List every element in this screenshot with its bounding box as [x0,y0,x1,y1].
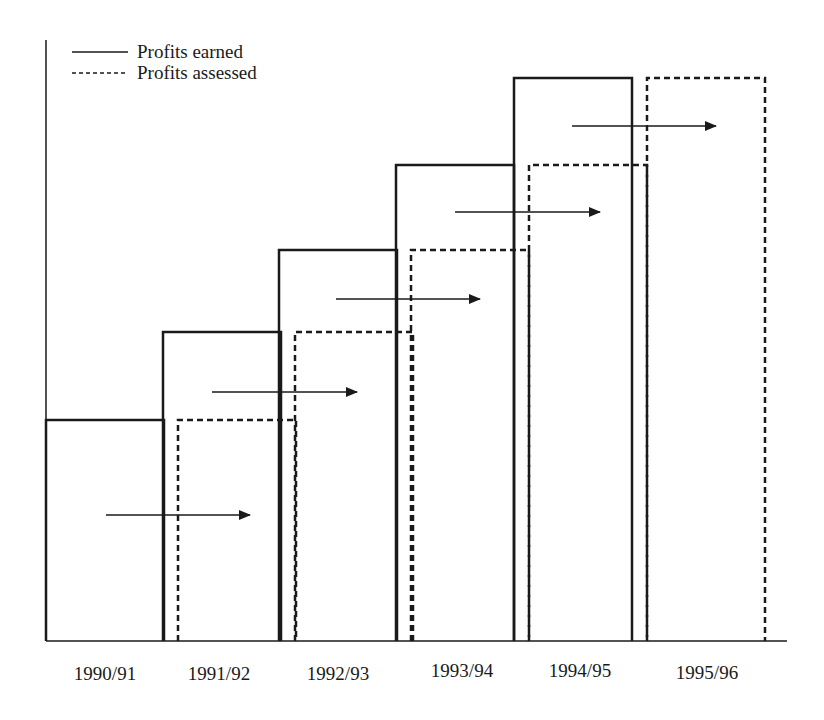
x-tick-label: 1992/93 [307,663,369,684]
x-tick-label: 1991/92 [188,663,250,684]
x-tick-label: 1995/96 [676,662,738,683]
legend-label-earned: Profits earned [137,41,244,62]
chart-canvas: Profits earned Profits assessed 1990/91 … [0,0,824,720]
bar-profits-earned [514,78,632,641]
bar-profits-earned [46,420,164,641]
series-profits-assessed [178,78,765,641]
x-tick-label: 1994/95 [549,660,611,681]
legend-label-assessed: Profits assessed [137,62,257,83]
series-profits-earned [46,78,632,641]
legend: Profits earned Profits assessed [72,41,257,83]
x-tick-label: 1990/91 [74,663,136,684]
bar-profits-assessed [529,165,647,641]
bar-profits-assessed [647,78,765,641]
bar-profits-earned [163,332,281,641]
x-tick-labels: 1990/91 1991/92 1992/93 1993/94 1994/95 … [74,660,738,684]
bar-profits-assessed [411,250,529,641]
chart-container: Profits earned Profits assessed 1990/91 … [0,0,824,720]
x-tick-label: 1993/94 [431,660,494,681]
